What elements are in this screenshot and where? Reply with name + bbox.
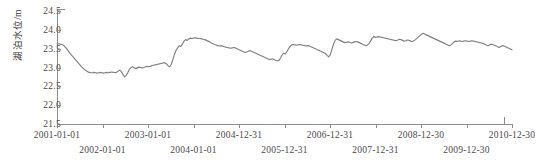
water-level-line: [57, 33, 512, 77]
